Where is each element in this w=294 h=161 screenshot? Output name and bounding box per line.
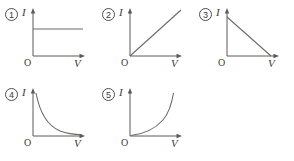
x-axis-arrowhead — [274, 54, 280, 58]
plot-area-hyperbolic-decay — [2, 82, 97, 160]
y-axis-arrowhead — [31, 8, 35, 14]
panel-2: 2 I V O — [99, 2, 194, 80]
x-axis-arrowhead — [80, 54, 86, 58]
x-axis-arrowhead — [177, 54, 183, 58]
y-axis-arrowhead — [225, 8, 229, 14]
curve-hyperbolic-decay — [36, 93, 82, 135]
plot-area-constant — [2, 2, 97, 80]
panel-4: 4 I V O — [2, 82, 97, 160]
y-axis-arrowhead — [128, 8, 132, 14]
panel-5: 5 I V O — [99, 82, 194, 160]
plot-area-linear-increasing — [99, 2, 194, 80]
curve-linear-increasing — [130, 10, 181, 56]
panel-1: 1 I V O — [2, 2, 97, 80]
iv-graph-figure: 1 I V O 2 I V O 3 I V O — [0, 0, 294, 161]
curve-linear-decreasing — [227, 17, 271, 56]
x-axis-arrowhead — [177, 134, 183, 138]
y-axis-arrowhead — [31, 88, 35, 94]
plot-area-exponential-growth — [99, 82, 194, 160]
plot-area-linear-decreasing — [196, 2, 291, 80]
y-axis-arrowhead — [128, 88, 132, 94]
panel-3: 3 I V O — [196, 2, 291, 80]
curve-exponential-growth — [131, 93, 174, 136]
